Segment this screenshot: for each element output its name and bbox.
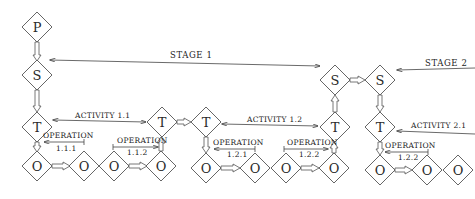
node-t5: T [365, 112, 395, 142]
arrow-t4-to-s2 [331, 95, 339, 112]
stage-1-span-line [50, 60, 320, 66]
node-o2: O [69, 151, 99, 181]
stage-2-label: STAGE 2 [425, 58, 467, 68]
node-o3: O [99, 151, 129, 181]
node-t2: T [147, 107, 177, 137]
labels: STAGE 1 STAGE 2 ACTIVITY 1.1 ACTIVITY 1.… [43, 50, 467, 162]
arrow-t5-to-o9 [376, 142, 384, 155]
arrow-t2-to-t3 [177, 118, 191, 126]
node-letter: O [250, 161, 261, 176]
node-o8: O [319, 153, 349, 183]
node-s1: S [22, 60, 52, 90]
arrow-t3-to-o5 [202, 137, 210, 153]
node-letter: O [201, 161, 212, 176]
node-o1: O [22, 151, 52, 181]
node-letter: O [156, 159, 167, 174]
operation-1-2-2-right-number: 1.2.2 [398, 153, 419, 162]
node-o5: O [191, 153, 221, 183]
node-t3: T [191, 107, 221, 137]
node-letter: S [331, 73, 340, 88]
operation-1-1-2-number: 1.1.2 [127, 148, 148, 157]
arrow-o5-to-o6 [221, 164, 240, 172]
operation-1-1-1-label: OPERATION [43, 131, 94, 140]
operation-1-1-1-number: 1.1.1 [56, 144, 77, 153]
operation-1-2-1-number: 1.2.1 [227, 150, 248, 159]
arrow-o7-to-o8 [301, 164, 319, 172]
activity-1-2-span-line [222, 124, 318, 126]
node-letter: O [329, 161, 340, 176]
node-p: P [22, 12, 52, 42]
flow-arrows [33, 42, 412, 174]
arrow-o9-to-o10 [395, 166, 412, 174]
stage-1-label: STAGE 1 [170, 50, 212, 60]
activity-2-1-span-line [397, 131, 475, 134]
operation-1-2-1-label: OPERATION [213, 138, 264, 147]
node-letter: T [202, 115, 211, 130]
operation-1-2-2-label: OPERATION [287, 138, 338, 147]
stage-2-span-line [397, 68, 475, 70]
node-letter: O [422, 163, 433, 178]
node-letter: P [33, 20, 42, 35]
arrow-s1-to-t1 [33, 90, 41, 112]
operation-1-2-2-number: 1.2.2 [299, 150, 320, 159]
node-letter: O [281, 161, 292, 176]
node-o11: O [443, 155, 473, 185]
node-letter: O [79, 159, 90, 174]
node-s2: S [320, 65, 350, 95]
node-letter: T [331, 120, 340, 135]
node-letter: T [158, 115, 167, 130]
node-letter: O [32, 159, 43, 174]
node-o7: O [271, 153, 301, 183]
activity-1-1-span-line [53, 120, 146, 122]
operation-1-1-2-label: OPERATION [117, 136, 168, 145]
process-hierarchy-diagram: P S T O O O T O T O O O O T S S T O O O … [0, 0, 475, 199]
arrow-s3-to-t5 [376, 95, 384, 112]
node-s3: S [365, 65, 395, 95]
node-letter: T [376, 120, 385, 135]
activity-1-2-label: ACTIVITY 1.2 [246, 115, 302, 124]
arrow-o1-to-o2 [52, 162, 70, 170]
node-letter: O [375, 163, 386, 178]
node-letter: O [109, 159, 120, 174]
node-o9: O [365, 155, 395, 185]
arrow-p-to-s1 [33, 42, 41, 61]
diagram-canvas: P S T O O O T O T O O O O T S S T O O O … [0, 0, 475, 199]
node-letter: S [376, 73, 385, 88]
node-o4: O [146, 151, 176, 181]
operation-1-2-2-right-label: OPERATION [385, 141, 436, 150]
arrow-s2-to-s3 [350, 76, 365, 84]
activity-2-1-label: ACTIVITY 2.1 [410, 121, 466, 130]
arrow-o3-to-o4 [129, 162, 147, 170]
node-letter: S [33, 68, 42, 83]
node-letter: O [453, 163, 464, 178]
activity-1-1-label: ACTIVITY 1.1 [74, 111, 130, 120]
node-letter: T [33, 120, 42, 135]
